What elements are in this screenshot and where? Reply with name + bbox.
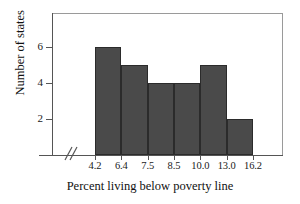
x-axis-tick-label: 7.5 [135,160,161,172]
y-axis-tick-label: 4 [29,77,43,88]
x-axis-tick-label: 8.5 [161,160,187,172]
histogram-figure: 246 4.26.47.58.510.013.016.2 Percent liv… [0,0,300,204]
x-axis-title: Percent living below poverty line [0,180,300,194]
y-axis-tick-label: 2 [29,113,43,124]
x-axis-tick-label: 6.4 [108,160,134,172]
histogram-bar [148,83,174,155]
y-axis-tick [46,83,52,84]
y-axis-tick [46,119,52,120]
y-axis-title: Number of states [14,0,28,123]
x-axis-tick-label: 13.0 [214,160,240,172]
x-axis-tick-label: 16.2 [240,160,266,172]
histogram-bar [200,65,226,155]
histogram-bar [121,65,147,155]
histogram-bar [95,47,121,155]
y-axis-tick-label: 6 [29,41,43,52]
histogram-bar [227,119,253,155]
histogram-bar [174,83,200,155]
x-axis-tick-label: 10.0 [187,160,213,172]
y-axis-tick [46,47,52,48]
y-axis-line [52,13,53,156]
x-axis-tick-label: 4.2 [82,160,108,172]
x-axis-line [39,155,283,156]
